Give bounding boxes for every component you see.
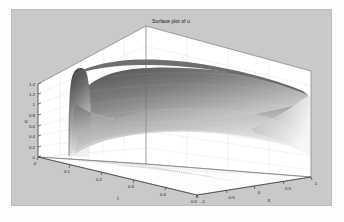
x-tick-label: -1 — [201, 199, 205, 204]
t-tick-label: 0.3 — [128, 184, 135, 189]
x-tick-label: -0.5 — [227, 195, 235, 200]
x-tick-label: 1 — [315, 181, 318, 186]
x-tick-label: 0.5 — [285, 186, 292, 191]
t-tick-label: 0.2 — [96, 177, 103, 182]
t-tick-label: 0.5 — [191, 199, 198, 204]
t-tick-label: 0.4 — [160, 192, 167, 197]
t-tick-label: 0 — [34, 161, 37, 166]
t-axis-label: t — [117, 196, 119, 201]
x-tick-label: 0 — [258, 190, 261, 195]
figure-panel: Surface plot of u 1.4 1.2 1 0.8 0.6 0.4 … — [11, 9, 332, 206]
z-tick-label: 1.2 — [29, 92, 36, 97]
x-axis-label: x — [268, 198, 271, 203]
t-tick-label: 0.1 — [64, 169, 71, 174]
z-tick-label: 0.8 — [29, 113, 36, 118]
z-tick-label: 0.4 — [29, 134, 36, 139]
z-tick-label: 1.4 — [29, 82, 36, 87]
z-tick-label: 0.6 — [29, 124, 36, 129]
surface-plot-canvas: Surface plot of u 1.4 1.2 1 0.8 0.6 0.4 … — [11, 9, 332, 206]
z-tick-labels: 1.4 1.2 1 0.8 0.6 0.4 0.2 0 — [29, 82, 36, 160]
figure-window: Surface plot of u 1.4 1.2 1 0.8 0.6 0.4 … — [0, 0, 344, 222]
plot-title: Surface plot of u — [152, 18, 190, 24]
z-tick-label: 0 — [33, 155, 36, 160]
axes-3d: Surface plot of u 1.4 1.2 1 0.8 0.6 0.4 … — [11, 9, 332, 206]
z-axis-label: u — [25, 119, 28, 124]
z-tick-label: 0.2 — [29, 145, 36, 150]
z-tick-label: 1 — [33, 102, 36, 107]
